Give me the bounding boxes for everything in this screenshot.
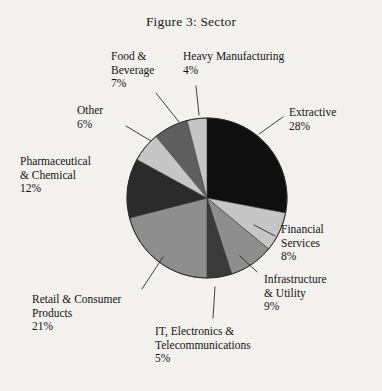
leader-line-it-electronics (213, 287, 215, 318)
pie-slices (127, 118, 287, 278)
pie-label-heavy-manufacturing-value: 4% (183, 64, 284, 78)
pie-label-infrastructure-utility-value: 9% (264, 300, 327, 314)
leader-line-retail (142, 257, 163, 289)
figure-container: Figure 3: Sector (0, 0, 382, 391)
pie-label-food-beverage-name-line2: Beverage (111, 64, 154, 78)
pie-label-retail-consumer-products-name-line2: Products (32, 307, 121, 321)
pie-label-other-name: Other (77, 104, 103, 118)
pie-slice-extractive[interactable] (207, 118, 287, 213)
pie-label-pharmaceutical-chemical: Pharmaceutical & Chemical 12% (20, 155, 91, 196)
pie-label-heavy-manufacturing-name: Heavy Manufacturing (183, 50, 284, 64)
pie-label-food-beverage-name-line1: Food & (111, 50, 154, 64)
pie-label-financial-services-name-line2: Services (281, 237, 324, 251)
leader-line-heavy-manufacturing (196, 86, 199, 115)
pie-label-food-beverage-value: 7% (111, 77, 154, 91)
pie-label-retail-consumer-products: Retail & Consumer Products 21% (32, 293, 121, 334)
pie-label-financial-services: Financial Services 8% (281, 223, 324, 264)
pie-label-heavy-manufacturing: Heavy Manufacturing 4% (183, 50, 284, 77)
pie-label-other: Other 6% (77, 104, 103, 131)
leader-line-food-beverage (156, 93, 179, 122)
leader-line-extractive (259, 117, 283, 134)
pie-label-financial-services-value: 8% (281, 250, 324, 264)
pie-label-extractive-value: 28% (289, 120, 336, 134)
pie-label-food-beverage: Food & Beverage 7% (111, 50, 154, 91)
pie-label-other-value: 6% (77, 118, 103, 132)
pie-label-retail-consumer-products-name-line1: Retail & Consumer (32, 293, 121, 307)
leader-line-other (126, 126, 151, 141)
pie-label-infrastructure-utility-name-line2: & Utility (264, 287, 327, 301)
pie-label-it-electronics-telecom-value: 5% (155, 352, 251, 366)
pie-label-retail-consumer-products-value: 21% (32, 320, 121, 334)
pie-label-infrastructure-utility: Infrastructure & Utility 9% (264, 273, 327, 314)
pie-label-pharmaceutical-chemical-value: 12% (20, 182, 91, 196)
pie-label-it-electronics-telecom-name-line1: IT, Electronics & (155, 325, 251, 339)
pie-label-pharmaceutical-chemical-name-line2: & Chemical (20, 169, 91, 183)
pie-label-pharmaceutical-chemical-name-line1: Pharmaceutical (20, 155, 91, 169)
pie-label-extractive: Extractive 28% (289, 106, 336, 133)
pie-label-infrastructure-utility-name-line1: Infrastructure (264, 273, 327, 287)
pie-label-extractive-name: Extractive (289, 106, 336, 120)
pie-label-it-electronics-telecom-name-line2: Telecommunications (155, 339, 251, 353)
pie-label-financial-services-name-line1: Financial (281, 223, 324, 237)
pie-label-it-electronics-telecom: IT, Electronics & Telecommunications 5% (155, 325, 251, 366)
